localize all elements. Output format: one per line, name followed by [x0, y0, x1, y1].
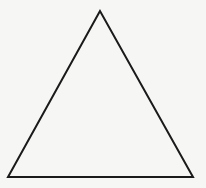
- triangle-diagram: [0, 0, 206, 188]
- diagram-canvas: [0, 0, 206, 188]
- triangle-shape: [8, 11, 193, 177]
